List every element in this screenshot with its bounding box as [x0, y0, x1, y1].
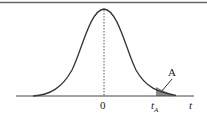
origin-label: 0 — [100, 100, 106, 111]
axis-label: t — [189, 100, 192, 111]
area-label: A — [168, 67, 176, 78]
critical-value-label: tA — [151, 100, 158, 113]
critical-value-subscript: A — [154, 106, 158, 113]
area-pointer-line — [161, 79, 172, 92]
t-distribution-diagram — [0, 0, 207, 113]
